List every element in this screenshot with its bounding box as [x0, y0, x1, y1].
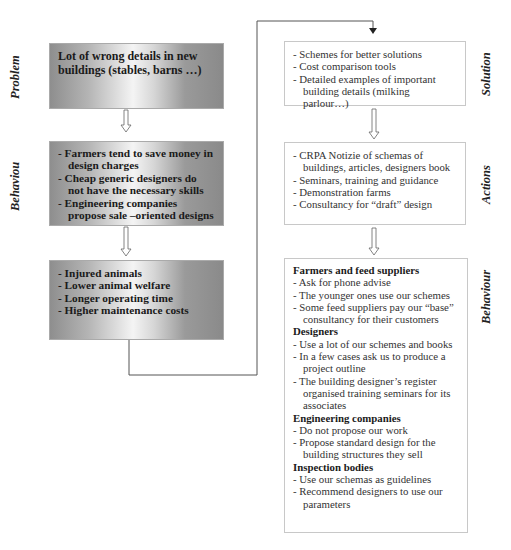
- label-behaviour-left: Behaviou: [8, 148, 23, 224]
- problem-line: Lot of wrong details in new: [58, 50, 215, 64]
- group-heading: Designers: [293, 325, 459, 337]
- behaviour-left-item: - Farmers tend to save money in design c…: [58, 147, 215, 172]
- behaviour-right-box: Farmers and feed suppliers - Ask for pho…: [284, 258, 468, 533]
- action-item: - Seminars, training and guidance: [293, 174, 457, 186]
- group-heading: Farmers and feed suppliers: [293, 264, 459, 276]
- consequences-box: - Injured animals - Lower animal welfare…: [49, 260, 224, 340]
- action-item: - Consultancy for “draft” design: [293, 198, 457, 210]
- actions-box: - CRPA Notizie of schemas of buildings, …: [284, 142, 466, 225]
- solution-item: - Schemes for better solutions: [293, 48, 457, 60]
- behaviour-right-item: - In a few cases ask us to produce a pro…: [293, 350, 459, 375]
- problem-line: buildings (stables, barns …): [58, 64, 215, 78]
- behaviour-right-item: - Some feed suppliers pay our “base” con…: [293, 301, 459, 326]
- consequence-item: - Longer operating time: [58, 292, 215, 304]
- label-solution: Solution: [479, 44, 494, 104]
- behaviour-right-item: - Use a lot of our schemes and books: [293, 338, 459, 350]
- problem-box: Lot of wrong details in new buildings (s…: [49, 43, 224, 109]
- behaviour-left-box: - Farmers tend to save money in design c…: [49, 141, 224, 226]
- label-problem: Problem: [8, 47, 23, 107]
- consequence-item: - Higher maintenance costs: [58, 304, 215, 316]
- behaviour-right-item: - Do not propose our work: [293, 424, 459, 436]
- solution-box: - Schemes for better solutions - Cost co…: [284, 41, 466, 106]
- behaviour-right-item: - The younger ones use our schemes: [293, 289, 459, 301]
- action-item: - CRPA Notizie of schemas of buildings, …: [293, 149, 457, 174]
- group-heading: Engineering companies: [293, 412, 459, 424]
- behaviour-right-item: - Ask for phone advise: [293, 276, 459, 288]
- solution-item: - Detailed examples of important buildin…: [293, 73, 457, 110]
- label-actions: Actions: [479, 155, 494, 215]
- behaviour-left-item: - Cheap generic designers do not have th…: [58, 172, 215, 197]
- consequence-item: - Injured animals: [58, 267, 215, 279]
- behaviour-left-item: - Engineering companies propose sale –or…: [58, 197, 215, 222]
- behaviour-right-item: - Use our schemas as guidelines: [293, 473, 459, 485]
- behaviour-right-item: - Propose standard design for the buildi…: [293, 436, 459, 461]
- group-heading: Inspection bodies: [293, 461, 459, 473]
- solution-item: - Cost comparison tools: [293, 60, 457, 72]
- consequence-item: - Lower animal welfare: [58, 279, 215, 291]
- action-item: - Demonstration farms: [293, 186, 457, 198]
- behaviour-right-item: - The building designer’s register organ…: [293, 375, 459, 412]
- behaviour-right-item: - Recommend designers to use our paramet…: [293, 485, 459, 510]
- label-behaviour-right: Behaviour: [479, 262, 494, 332]
